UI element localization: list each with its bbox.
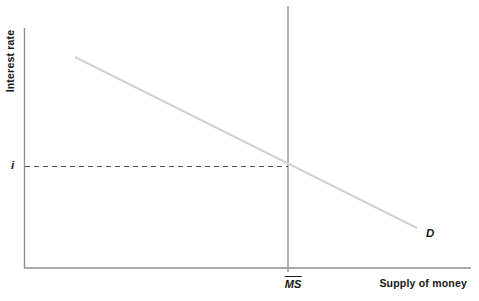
money-demand-curve-label: D	[426, 228, 434, 240]
x-axis-label: Supply of money	[379, 278, 467, 289]
money-market-chart: Interest rate Supply of money i MS D	[0, 0, 479, 301]
money-demand-line	[75, 57, 417, 228]
y-axis-label: Interest rate	[5, 30, 16, 93]
chart-canvas	[0, 0, 479, 301]
equilibrium-interest-rate-label: i	[11, 160, 14, 172]
money-supply-curve-label: MS	[285, 276, 302, 290]
ms-overbar-text: MS	[285, 276, 302, 290]
